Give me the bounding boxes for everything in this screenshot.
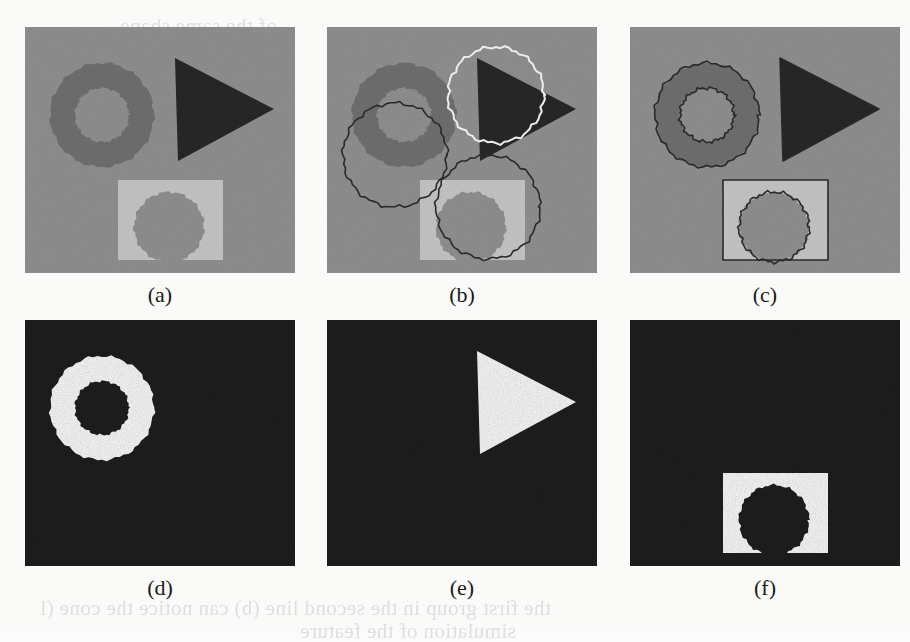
panel-b-canvas [327,27,597,273]
panel-a-caption: (a) [25,282,295,308]
panel-d-caption: (d) [25,575,295,601]
panel-a-canvas [25,27,295,273]
panel-e [327,320,597,566]
panel-e-canvas [327,320,597,566]
panel-d [25,320,295,566]
panel-a [25,27,295,273]
panel-c-canvas [630,27,900,273]
panel-f-caption: (f) [630,575,900,601]
panel-e-caption: (e) [327,575,597,601]
panel-f-canvas [630,320,900,566]
panel-d-canvas [25,320,295,566]
panel-e-background [327,320,597,566]
panel-b [327,27,597,273]
panel-c-caption: (c) [630,282,900,308]
panel-b-caption: (b) [327,282,597,308]
panel-c [630,27,900,273]
panel-f [630,320,900,566]
